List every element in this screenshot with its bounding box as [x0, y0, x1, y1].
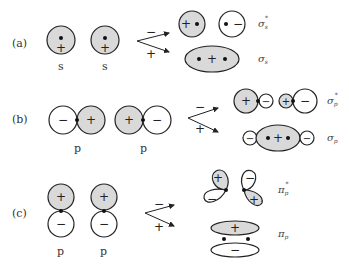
atom-label: s [58, 60, 64, 73]
svg-text:−: − [245, 171, 255, 185]
label-sigma-s-star: σs* [258, 14, 268, 30]
label-sigma-p: σp [327, 132, 338, 145]
svg-text:+: + [207, 52, 217, 66]
sign: + [56, 41, 66, 55]
mo-diagram: (a) + + s s − + + − σs* + σs [0, 0, 349, 274]
split-arrows: − + [137, 25, 169, 61]
svg-text:−: − [58, 113, 68, 127]
svg-text:+: + [282, 96, 290, 107]
svg-text:+: + [56, 190, 66, 204]
row-label-a: (a) [12, 37, 27, 50]
svg-text:−: − [152, 113, 162, 127]
row-c: (c) + − + − p p − + + − − + πp* [12, 170, 289, 258]
svg-text:−: − [246, 133, 254, 144]
svg-text:−: − [154, 197, 164, 211]
svg-text:−: − [230, 243, 240, 257]
svg-text:+: + [99, 190, 109, 204]
label-pi-p-star: πp* [277, 180, 289, 197]
svg-text:−: − [207, 192, 217, 206]
svg-text:+: + [241, 94, 251, 108]
row-label-b: (b) [12, 113, 28, 126]
svg-text:+: + [273, 131, 283, 145]
svg-text:+: + [86, 113, 96, 127]
svg-text:−: − [99, 217, 109, 231]
svg-text:+: + [230, 221, 240, 235]
pi-p-bonding: + − πp [211, 221, 289, 257]
sigma-s-antibonding: + − σs* [179, 11, 268, 37]
split-arrows: − + [188, 100, 218, 136]
row-label-c: (c) [12, 207, 27, 220]
svg-text:+: + [124, 113, 134, 127]
svg-text:−: − [300, 94, 310, 108]
svg-text:−: − [146, 25, 156, 39]
svg-text:p: p [140, 142, 147, 155]
label-sigma-s: σs [258, 53, 268, 65]
svg-text:−: − [233, 17, 243, 31]
svg-text:−: − [262, 96, 270, 107]
atom-label: s [102, 60, 108, 73]
label-pi-p: πp [277, 228, 289, 241]
sigma-s-bonding: + σs [185, 46, 268, 72]
svg-text:+: + [146, 47, 156, 61]
label-sigma-p-star: σp* [327, 91, 338, 108]
pi-p-antibonding: + − − + πp* [204, 170, 289, 207]
svg-text:+: + [213, 171, 223, 185]
svg-text:+: + [181, 17, 191, 31]
svg-text:p: p [100, 245, 107, 258]
sigma-p-bonding: − + − σp [243, 125, 338, 151]
row-b: (b) − + + − p p − + + − + − σp* [12, 89, 338, 155]
split-arrows: − + [145, 197, 174, 234]
svg-text:p: p [74, 142, 81, 155]
svg-text:p: p [57, 245, 64, 258]
sigma-p-antibonding: + − + − σp* [234, 89, 338, 113]
svg-text:−: − [195, 100, 205, 114]
sign: + [100, 41, 110, 55]
svg-text:+: + [154, 220, 164, 234]
svg-text:+: + [249, 193, 259, 207]
svg-text:−: − [303, 133, 311, 144]
svg-text:+: + [195, 122, 205, 136]
row-a: (a) + + s s − + + − σs* + σs [12, 11, 268, 73]
svg-text:−: − [56, 217, 66, 231]
